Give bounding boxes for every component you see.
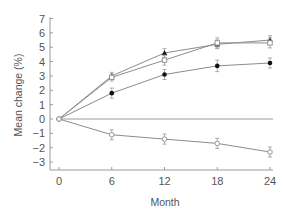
marker-filled-circle: [109, 91, 114, 96]
y-axis-label: Mean change (%): [12, 54, 24, 137]
marker-filled-circle: [215, 64, 220, 69]
series-group: [57, 36, 273, 157]
marker-open-square: [215, 41, 219, 45]
x-tick-label: 0: [56, 175, 62, 187]
x-axis-label: Month: [150, 196, 179, 208]
x-tick-label: 18: [211, 175, 223, 187]
y-tick-label: 6: [39, 27, 45, 39]
marker-open-circle: [268, 150, 273, 155]
line-chart: 76543210−1−2−306121824 Month Mean change…: [0, 0, 284, 215]
y-tick-label: −1: [32, 127, 45, 139]
series-open-circle: [57, 117, 273, 157]
y-tick-label: 5: [39, 41, 45, 53]
marker-filled-circle: [162, 72, 167, 77]
chart-canvas: 76543210−1−2−306121824 Month Mean change…: [0, 0, 284, 215]
y-tick-label: 7: [39, 13, 45, 25]
marker-open-circle: [109, 132, 114, 137]
axes: 76543210−1−2−306121824: [32, 13, 276, 188]
x-tick-label: 24: [264, 175, 276, 187]
series-filled-circle: [57, 58, 273, 121]
y-tick-label: −2: [32, 142, 45, 154]
marker-open-square: [268, 41, 272, 45]
x-tick-label: 12: [158, 175, 170, 187]
y-tick-label: 2: [39, 84, 45, 96]
marker-filled-circle: [268, 61, 273, 66]
y-tick-label: −3: [32, 156, 45, 168]
y-tick-label: 4: [39, 56, 45, 68]
marker-open-square: [162, 58, 166, 62]
y-tick-label: 0: [39, 113, 45, 125]
marker-open-circle: [215, 141, 220, 146]
marker-open-square: [110, 75, 114, 79]
x-tick-label: 6: [109, 175, 115, 187]
y-tick-label: 3: [39, 70, 45, 82]
marker-open-circle: [162, 137, 167, 142]
y-tick-label: 1: [39, 99, 45, 111]
origin-marker: [57, 117, 61, 121]
